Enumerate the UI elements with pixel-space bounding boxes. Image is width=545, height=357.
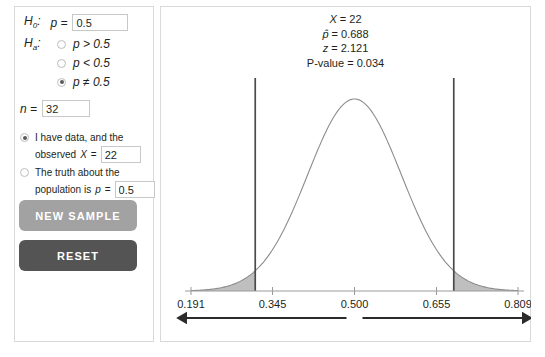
observed-x-symbol: X: [80, 149, 87, 160]
sample-size-row: n =: [20, 100, 90, 117]
observed-x-input[interactable]: [101, 146, 141, 163]
normal-curve: [191, 99, 518, 291]
data-source-option-truth[interactable]: The truth about the: [20, 166, 138, 180]
null-hypothesis-row: H0: p =: [24, 14, 128, 31]
sample-size-input[interactable]: [42, 100, 90, 117]
radio-population-truth[interactable]: [20, 168, 29, 177]
observed-x-row: observed X =: [35, 146, 141, 163]
null-param-label: p =: [50, 16, 67, 30]
x-axis-tick-label: 0.655: [423, 298, 451, 310]
radio-alt-greater[interactable]: [57, 40, 66, 49]
null-hypothesis-label: H0:: [24, 14, 40, 30]
x-axis-tick-label: 0.809: [504, 298, 531, 310]
alt-option-less-label: p < 0.5: [73, 56, 110, 70]
alt-hypothesis-label-row: Ha:: [24, 36, 40, 52]
x-axis-tick-label: 0.500: [341, 298, 369, 310]
sample-size-label: n =: [20, 102, 37, 116]
have-data-label: I have data, and the: [35, 131, 123, 145]
population-p-prefix: population is: [35, 184, 91, 195]
alt-option-notequal[interactable]: p ≠ 0.5: [57, 75, 110, 89]
radio-alt-less[interactable]: [57, 59, 66, 68]
alt-option-notequal-label: p ≠ 0.5: [73, 75, 110, 89]
reset-button[interactable]: RESET: [19, 240, 137, 271]
left-tail-shading: [191, 271, 255, 291]
null-value-input[interactable]: [72, 14, 128, 31]
radio-alt-notequal[interactable]: [57, 78, 66, 87]
x-axis-tick-label: 0.191: [177, 298, 205, 310]
new-sample-button[interactable]: NEW SAMPLE: [19, 200, 137, 231]
sampling-distribution-chart: 0.1910.3450.5000.6550.809: [160, 6, 531, 342]
population-p-input[interactable]: [115, 181, 155, 198]
x-axis-tick-labels: 0.1910.3450.5000.6550.809: [177, 298, 531, 310]
population-p-equals: =: [105, 184, 111, 195]
data-source-option-observed[interactable]: I have data, and the: [20, 131, 138, 145]
population-p-row: population is p =: [35, 181, 155, 198]
observed-x-equals: =: [91, 149, 97, 160]
right-tail-shading: [454, 271, 518, 291]
population-truth-label: The truth about the: [35, 166, 120, 180]
alt-option-greater-label: p > 0.5: [73, 37, 110, 51]
radio-have-data[interactable]: [20, 133, 29, 142]
observed-x-prefix: observed: [35, 149, 76, 160]
alt-hypothesis-label: Ha:: [24, 36, 40, 52]
population-p-symbol: p: [95, 184, 101, 195]
x-axis-tick-label: 0.345: [259, 298, 287, 310]
alt-option-greater[interactable]: p > 0.5: [57, 37, 110, 51]
alt-option-less[interactable]: p < 0.5: [57, 56, 110, 70]
